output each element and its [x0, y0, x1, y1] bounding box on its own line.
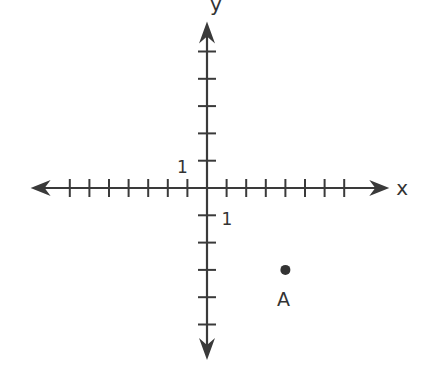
x-axis-label: x [396, 176, 408, 200]
coordinate-plane: x y 1 1 A [0, 0, 436, 387]
axes [31, 21, 390, 360]
point-a [280, 265, 290, 275]
points: A [277, 265, 291, 310]
point-label-a: A [277, 288, 290, 310]
y-unit-label: 1 [177, 157, 188, 177]
x-unit-label: 1 [222, 209, 233, 229]
y-axis-label: y [210, 0, 222, 16]
